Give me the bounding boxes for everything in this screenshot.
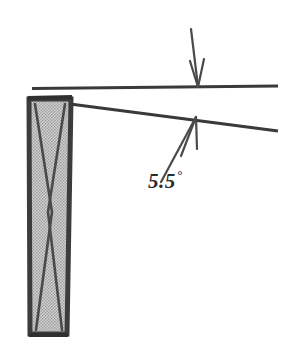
column-fill	[29, 99, 71, 334]
angle-label: 5.5°	[148, 168, 182, 192]
down-arrow-head-right	[198, 59, 204, 87]
figure-root: 5.5°	[0, 0, 294, 359]
angle-value: 5.5	[148, 169, 176, 193]
down-arrow	[190, 29, 204, 87]
tilted-line-stroke	[70, 104, 278, 131]
diagram-canvas	[0, 0, 294, 359]
degree-symbol: °	[177, 167, 183, 182]
leader-arrow-head-left	[181, 117, 196, 156]
leader-arrow-head-right	[196, 117, 197, 149]
horizontal-reference-line	[32, 86, 278, 89]
hatched-column	[28, 97, 72, 335]
tilted-line	[70, 104, 278, 131]
column-top-cap	[28, 97, 72, 98]
reference-line-stroke	[32, 86, 278, 89]
